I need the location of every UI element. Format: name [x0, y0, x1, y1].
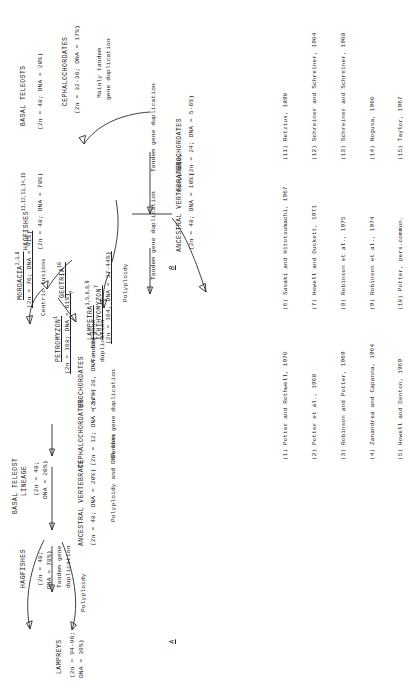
reference-item: (7) Howell and Duckett, 1971 — [310, 186, 320, 310]
process-label-b-dup1: duplication — [99, 320, 107, 363]
node-basal-teleosts-b-name: BASAL TELEOSTS — [20, 65, 28, 126]
reference-item: (11) Retzius, 1890 — [281, 32, 291, 160]
reference-item: (5) Howell and Denton, 1969 — [396, 344, 406, 460]
node-hagfishes-b-name: HAGFISHES11,12,13,14,15 — [20, 172, 32, 250]
node-cephalochordates-b-karyotype: (2n = 32-36; DNA = 17%) — [74, 25, 82, 114]
node-mordacia-ref: 2,3,8 — [15, 252, 20, 266]
node-lampreys-karyotype: (2n = 94-96; — [69, 632, 77, 678]
process-label-b-centric-fusions: Centric fusions — [40, 258, 48, 316]
node-hagfishes-karyotype: (2n = 48; — [37, 551, 45, 586]
node-basal-teleosts-b-values: (2n = 48; DNA = 20%) — [37, 53, 45, 130]
node-ichthyomyzon-ref: 7 — [94, 285, 99, 288]
reference-item: (15) Taylor, 1967 — [396, 32, 406, 160]
reference-item: (14) Nogusa, 1960 — [368, 32, 378, 160]
node-urochordates-b-karyotype: (2n = 24; DNA = 5-6%) — [188, 95, 196, 176]
node-lampreys-name: LAMPREYS — [56, 639, 64, 674]
process-label-a-polyploidy: Polyploidy — [80, 573, 88, 612]
node-ancestral-vertebrates-b-karyotype: (2n = 48; DNA = 10%) — [188, 173, 196, 250]
process-label-b-tandem-dup1: Tandem gene duplication — [150, 191, 158, 280]
process-label-b-question: ? — [68, 290, 76, 294]
node-cephalochordates-a-name: CEPHALOCHORDATES — [78, 399, 86, 468]
reference-item: (8) Robinson et al., 1975 — [339, 186, 349, 310]
node-geotria-name: GEOTRIA10 — [56, 262, 68, 298]
reference-item: (1) Potter and Rothwell, 1970 — [281, 344, 291, 460]
node-hagfishes-dna: DNA = 78%) — [46, 550, 54, 589]
node-urochordates-a-name: UROCHORDATES — [78, 356, 86, 408]
node-basal-teleost-name2: LINEAGE — [21, 466, 29, 496]
node-basal-teleost-karyotype: (2n = 48; — [33, 461, 41, 496]
process-label-b-gene-dup: gene duplication — [105, 38, 113, 100]
process-label-b-tandem1: Tandem gene — [90, 320, 98, 363]
node-cephalochordates-b-name: CEPHALOCHORDATES — [62, 37, 70, 106]
node-basal-teleost-name: BASAL TELEOST — [12, 458, 20, 514]
node-lampetra-ref: 3,5,6,8,9 — [85, 281, 90, 306]
reference-column-1: (1) Potter and Rothwell, 1970 (2) Potter… — [262, 344, 408, 460]
node-basal-teleost-dna: DNA = 20%) — [42, 460, 50, 499]
process-label-b-mainly-tandem: Mainly tandem — [96, 48, 104, 98]
node-lampreys-dna: DNA = 39%) — [78, 639, 86, 678]
reference-item: (13) Schreiner and Schreiner, 1908 — [339, 32, 349, 160]
node-ancestral-vertebrate-name: ANCESTRAL VERTEBRATE — [78, 459, 86, 546]
reference-item: (2) Potter et al., 1968 — [310, 344, 320, 460]
reference-item: (12) Schreiner and Schreiner, 1904 — [310, 32, 320, 160]
process-label-a-tandem1: Tandem gene — [56, 546, 64, 589]
reference-item: (4) Zanandrea and Capanna, 1964 — [368, 344, 378, 460]
reference-item: (10) Potter, pers.commun. — [396, 186, 406, 310]
reference-item: (9) Robinson et al., 1974 — [368, 186, 378, 310]
process-label-a-dup1: duplication — [65, 546, 73, 589]
reference-column-3: (11) Retzius, 1890 (12) Schreiner and Sc… — [262, 32, 408, 160]
node-hagfishes-b-values: (2n = 48; DNA = 78%) — [37, 173, 45, 250]
reference-column-2: (6) Sasaki and Hitotsumachi, 1967 (7) Ho… — [262, 186, 408, 310]
reference-item: (6) Sasaki and Hitotsumachi, 1967 — [281, 186, 291, 310]
panel-b-letter: B — [168, 265, 176, 270]
process-label-b-polyploidy1: Polyploidy — [122, 263, 130, 302]
reference-item: (3) Robinson and Potter, 1969 — [339, 344, 349, 460]
process-label-b-polyploidy2: Polyploidy — [176, 153, 184, 192]
node-hagfishes-b-ref: 11,12,13,14,15 — [21, 172, 26, 211]
node-geotria-ref: 10 — [57, 262, 62, 268]
node-petromyzon-values: (2n = 168; DNA = 61%) — [64, 293, 72, 374]
node-mordacia-name: MORDACIA2,3,8 — [14, 252, 26, 300]
node-petromyzon-name: PETROMYZON1 — [52, 316, 64, 362]
panel-a-letter: A — [168, 639, 176, 644]
node-petromyzon-ref: 1 — [53, 316, 58, 319]
process-label-a-tandem-dup2: Tandem gene duplication — [110, 369, 118, 458]
node-hagfishes-name: HAGFISHES — [20, 549, 28, 588]
process-label-b-tandem-dup2: Tandem gene duplication — [150, 83, 158, 172]
node-ancestral-vertebrate-karyotype: (2n = 48; DNA = 20%) — [90, 469, 98, 546]
